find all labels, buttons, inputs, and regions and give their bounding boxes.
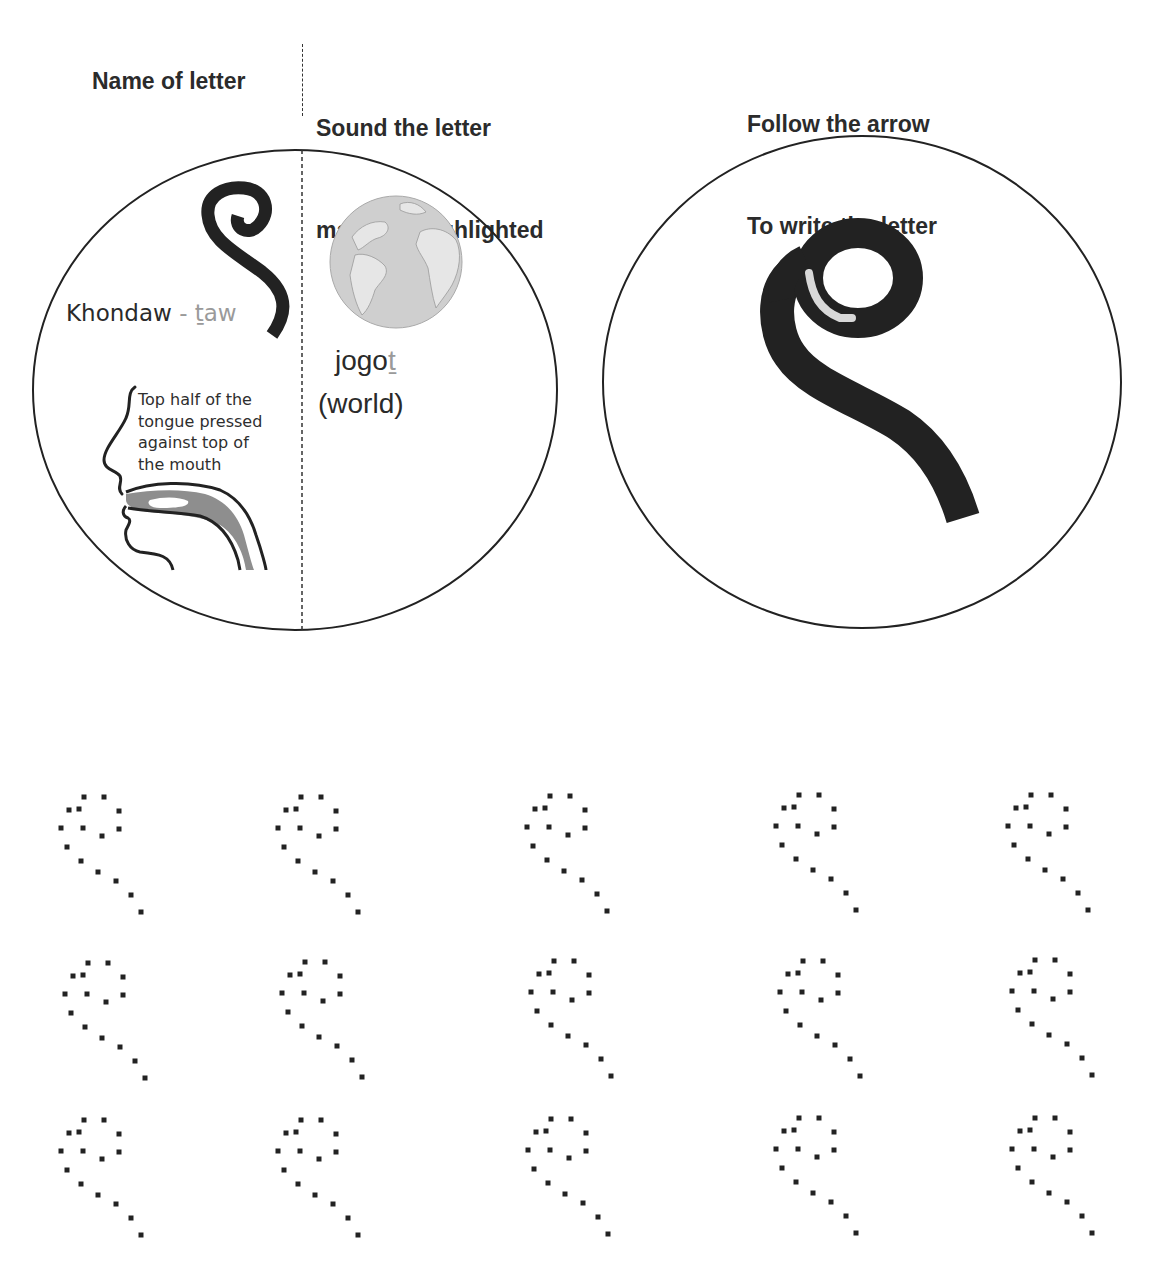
letter-info-panel [33, 150, 557, 630]
tongue-position-note: Top half of the tongue pressed against t… [138, 389, 262, 475]
letter-name-label: Khondaw - ṯaw [66, 300, 237, 326]
example-word-prefix: jogo [335, 345, 388, 376]
globe-icon [330, 196, 462, 328]
letter-sound-highlight: ṯaw [195, 300, 237, 326]
tracing-grid [59, 793, 1095, 1238]
letter-stroke-guide-icon [777, 233, 963, 518]
letter-name: Khondaw [66, 300, 172, 326]
worksheet-artwork [0, 0, 1152, 1279]
letter-separator: - [172, 300, 195, 326]
writing-guide-panel [603, 136, 1121, 628]
example-word-gloss: (world) [318, 388, 404, 420]
example-word: jogoṯ [335, 345, 396, 377]
example-word-highlight: ṯ [388, 345, 396, 376]
